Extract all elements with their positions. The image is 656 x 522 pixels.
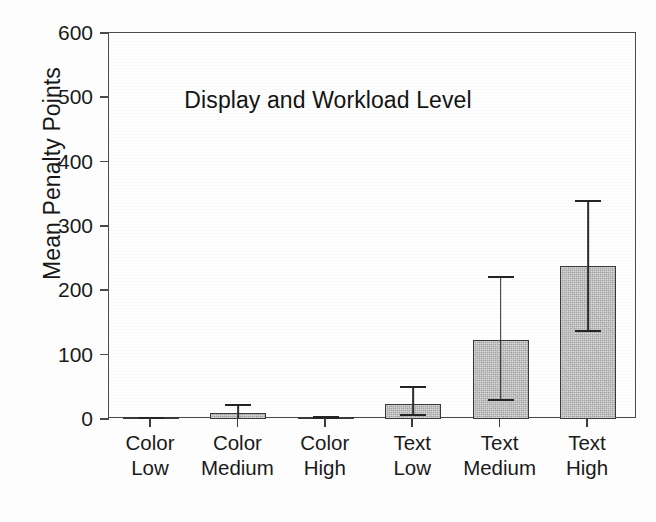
y-tick-label: 600 — [58, 21, 93, 45]
x-tick-mark-text-low — [411, 418, 413, 427]
error-bar-line-color-medium — [238, 404, 240, 419]
y-tick-mark — [100, 289, 109, 291]
error-bar-line-text-medium — [500, 276, 502, 399]
chart-figure: Mean Penalty Points 0100200300400500600 … — [0, 0, 656, 522]
y-tick-label: 300 — [58, 214, 93, 238]
y-tick-mark — [100, 32, 109, 34]
y-tick-label: 100 — [58, 343, 93, 367]
y-tick-label: 0 — [81, 407, 93, 431]
x-category-label-color-low: ColorLow — [126, 430, 175, 480]
x-category-label-text-low: TextLow — [393, 430, 431, 480]
error-bar-cap-upper-color-low — [138, 417, 164, 419]
y-tick-mark — [100, 354, 109, 356]
x-tick-mark-color-medium — [237, 418, 239, 427]
x-axis-title: Display and Workload Level — [0, 87, 656, 114]
y-tick-label: 400 — [58, 150, 93, 174]
error-bar-line-text-high — [587, 200, 589, 330]
error-bar-cap-upper-color-high — [313, 416, 339, 418]
x-tick-mark-color-low — [149, 418, 151, 427]
error-bar-cap-lower-text-low — [400, 414, 426, 416]
error-bar-cap-upper-color-medium — [225, 404, 251, 406]
x-tick-mark-text-medium — [499, 418, 501, 427]
error-bar-line-text-low — [412, 386, 414, 414]
x-tick-mark-text-high — [586, 418, 588, 427]
error-bar-cap-upper-text-high — [575, 200, 601, 202]
error-bar-cap-lower-text-high — [575, 330, 601, 332]
y-tick-mark — [100, 418, 109, 420]
x-category-label-color-medium: ColorMedium — [201, 430, 274, 480]
y-tick-label: 200 — [58, 278, 93, 302]
y-tick-mark — [100, 161, 109, 163]
x-category-label-text-medium: TextMedium — [463, 430, 536, 480]
x-tick-mark-color-high — [324, 418, 326, 427]
y-tick-mark — [100, 225, 109, 227]
x-category-label-color-high: ColorHigh — [300, 430, 349, 480]
y-axis-title: Mean Penalty Points — [39, 0, 66, 384]
x-category-label-text-high: TextHigh — [566, 430, 608, 480]
error-bar-cap-upper-text-medium — [488, 276, 514, 278]
error-bar-cap-upper-text-low — [400, 386, 426, 388]
error-bar-cap-lower-text-medium — [488, 399, 514, 401]
